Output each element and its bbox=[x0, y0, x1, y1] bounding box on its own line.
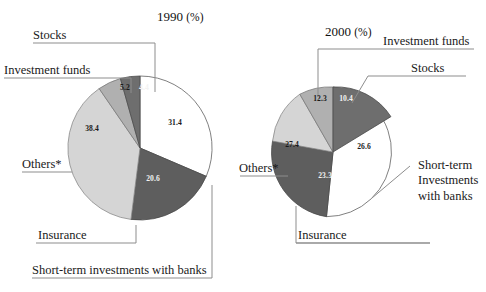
value-2000-stocks: 10.4 bbox=[339, 94, 353, 103]
label-2000-others: Others* bbox=[239, 161, 279, 175]
figure-canvas: 1990 (%) 2000 (%) Stocks Investment fund… bbox=[0, 0, 486, 292]
value-1990-investment-funds: 5.2 bbox=[120, 83, 130, 92]
chart-title-1990-year: 1990 bbox=[157, 9, 183, 24]
value-2000-investment-funds: 12.3 bbox=[313, 94, 327, 103]
label-1990-short-term: Short-term investments with banks bbox=[32, 263, 207, 277]
chart-title-2000: 2000 (%) bbox=[325, 24, 372, 40]
label-2000-investment-funds: Investment funds bbox=[383, 34, 469, 48]
value-1990-others: 38.4 bbox=[85, 124, 99, 133]
value-1990-insurance: 20.6 bbox=[146, 174, 160, 183]
label-2000-insurance: Insurance bbox=[298, 228, 347, 242]
pie-1990 bbox=[68, 76, 212, 220]
chart-title-1990: 1990 (%) bbox=[157, 9, 204, 25]
label-1990-others: Others* bbox=[22, 157, 62, 171]
chart-title-1990-unit: (%) bbox=[186, 11, 203, 23]
label-1990-investment-funds: Investment funds bbox=[4, 63, 90, 77]
label-2000-short-term: Short-term Investments with banks bbox=[418, 158, 476, 204]
chart-title-2000-year: 2000 bbox=[325, 24, 351, 39]
value-2000-short-term: 26.6 bbox=[357, 142, 371, 151]
label-2000-stocks: Stocks bbox=[411, 61, 444, 75]
label-1990-stocks: Stocks bbox=[33, 28, 66, 42]
value-1990-stocks: 4.4 bbox=[139, 83, 149, 92]
label-1990-insurance: Insurance bbox=[38, 228, 87, 242]
value-1990-short-term: 31.4 bbox=[168, 118, 182, 127]
value-2000-insurance: 23.3 bbox=[318, 171, 332, 180]
chart-title-2000-unit: (%) bbox=[354, 26, 371, 38]
value-2000-others: 27.4 bbox=[285, 140, 299, 149]
